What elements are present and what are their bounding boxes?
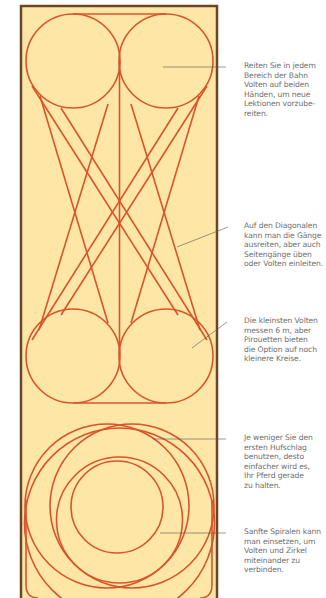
annotation-line: kann man die Gänge [244, 231, 326, 241]
annotation-line: Volten auf beiden [244, 80, 326, 90]
annotation-line: Pirouetten bieten [244, 335, 326, 345]
annotation-line: Ihr Pferd gerade [244, 471, 326, 481]
annotation-line: miteinander zu [244, 556, 326, 566]
annotation-line: oder Volten einleiten. [244, 259, 326, 269]
annotation-line: ausreiten, aber auch [244, 240, 326, 250]
annotation-line: messen 6 m, aber [244, 326, 326, 336]
annotation-line: kleinere Kreise. [244, 354, 326, 364]
annotation-hufschlag: Je weniger Sie den ersten Hufschlag benu… [244, 433, 326, 491]
annotation-line: Sanfte Spiralen kann [244, 527, 326, 537]
annotation-line: benutzen, desto [244, 452, 326, 462]
annotation-line: Volten und Zirkel [244, 546, 326, 556]
annotation-line: einfacher wird es, [244, 462, 326, 472]
annotation-line: Seitengänge üben [244, 250, 326, 260]
annotation-line: Lektionen vorzube- [244, 99, 326, 109]
annotation-diagonals: Auf den Diagonalen kann man die Gänge au… [244, 221, 326, 269]
annotation-line: ersten Hufschlag [244, 443, 326, 453]
annotation-line: reiten. [244, 109, 326, 119]
annotation-line: Je weniger Sie den [244, 433, 326, 443]
annotation-smallest-voltes: Die kleinsten Volten messen 6 m, aber Pi… [244, 316, 326, 364]
annotation-spirals: Sanfte Spiralen kann man einsetzen, um V… [244, 527, 326, 575]
annotation-line: Händen, um neue [244, 90, 326, 100]
annotation-line: Reiten Sie in jedem [244, 61, 326, 71]
annotation-voltes: Reiten Sie in jedem Bereich der Bahn Vol… [244, 61, 326, 119]
annotation-line: Auf den Diagonalen [244, 221, 326, 231]
annotation-line: die Option auf noch [244, 345, 326, 355]
annotation-line: Bereich der Bahn [244, 71, 326, 81]
annotation-line: man einsetzen, um [244, 537, 326, 547]
annotation-line: verbinden. [244, 565, 326, 575]
annotation-line: Die kleinsten Volten [244, 316, 326, 326]
annotation-line: zu halten. [244, 481, 326, 491]
